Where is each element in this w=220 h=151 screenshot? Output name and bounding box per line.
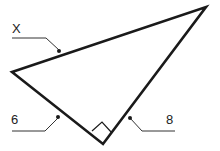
right-leg-leader-dot [128,116,132,120]
hypotenuse-leader-dot [57,49,61,53]
right-leg-label: 8 [166,112,173,127]
hypotenuse-label: X [12,21,21,36]
right-angle-marker [92,122,112,133]
hypotenuse-leader-line [12,38,59,50]
right-triangle-diagram: X 6 8 [0,0,220,151]
left-leg-leader-dot [56,115,60,119]
triangle-shape [12,7,206,144]
left-leg-label: 6 [11,112,18,127]
hypotenuse-callout: X [12,21,61,53]
left-leg-callout: 6 [11,112,60,131]
left-leg-leader-line [12,118,58,131]
right-leg-callout: 8 [128,112,175,131]
